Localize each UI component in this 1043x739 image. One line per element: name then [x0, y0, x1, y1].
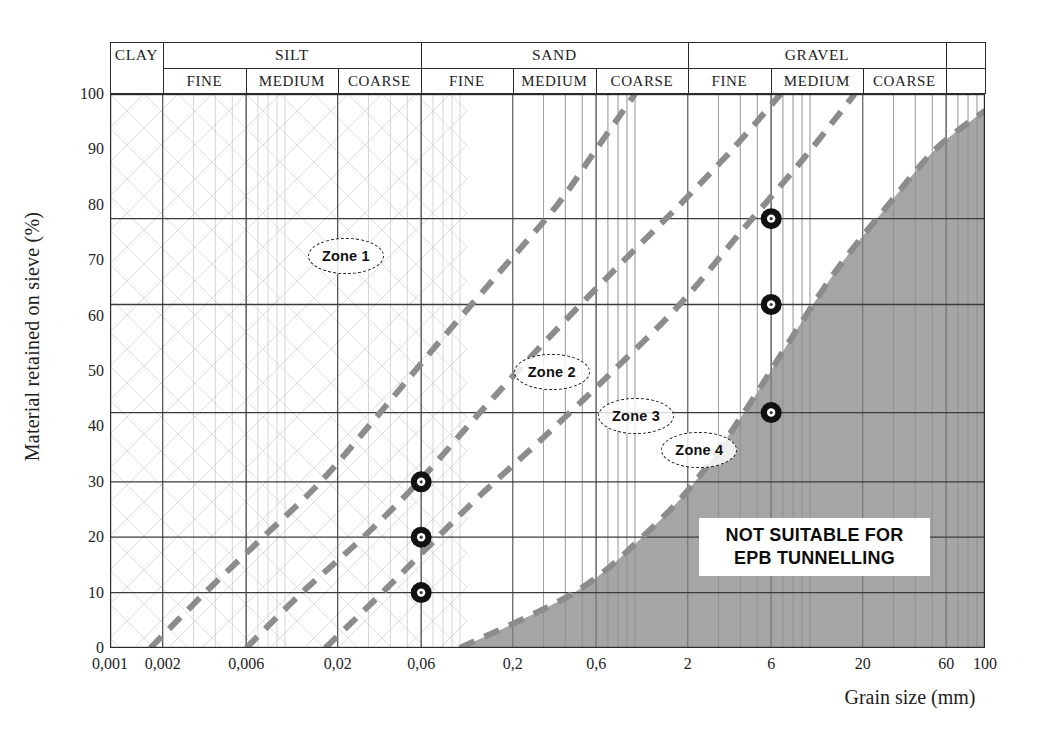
- data-marker-dot: [420, 480, 423, 483]
- soil-subclass-label: FINE: [688, 68, 771, 94]
- x-tick-label: 0,2: [503, 655, 523, 673]
- zone-annotation: Zone 2: [514, 354, 590, 390]
- data-marker-dot: [770, 411, 773, 414]
- y-tick-label: 60: [64, 308, 104, 324]
- x-tick-label: 0,002: [145, 655, 181, 673]
- x-tick-label: 0,02: [324, 655, 352, 673]
- x-tick-label: 0,001: [92, 655, 128, 673]
- y-tick-label: 90: [64, 141, 104, 157]
- soil-subclass-label: COARSE: [863, 68, 946, 94]
- header-divider: [771, 68, 772, 94]
- soil-subclass-label: FINE: [163, 68, 246, 94]
- soil-class-label: SAND: [421, 42, 688, 68]
- header-divider: [110, 42, 111, 94]
- y-axis-tick-labels: 0102030405060708090100: [60, 0, 104, 739]
- soil-subclass-label: MEDIUM: [246, 68, 338, 94]
- header-divider: [163, 68, 164, 94]
- x-tick-label: 0,6: [586, 655, 606, 673]
- x-axis-title: Grain size (mm): [800, 686, 1020, 709]
- y-tick-label: 70: [64, 252, 104, 268]
- y-axis-title: Material retained on sieve (%): [21, 77, 44, 597]
- x-tick-label: 100: [973, 655, 997, 673]
- header-divider: [946, 42, 947, 94]
- soil-subclass-label: COARSE: [338, 68, 421, 94]
- x-tick-label: 0,006: [228, 655, 264, 673]
- header-divider: [863, 68, 864, 94]
- not-suitable-callout: NOT SUITABLE FOR EPB TUNNELLING: [699, 518, 930, 576]
- zone-annotation: Zone 1: [308, 238, 384, 274]
- y-tick-label: 10: [64, 585, 104, 601]
- y-tick-label: 80: [64, 197, 104, 213]
- header-divider: [985, 42, 986, 94]
- header-divider: [421, 68, 422, 94]
- x-tick-label: 0,06: [407, 655, 435, 673]
- soil-subclass-label: COARSE: [596, 68, 688, 94]
- soil-subclass-label: MEDIUM: [771, 68, 863, 94]
- y-tick-label: 0: [64, 640, 104, 656]
- header-divider: [513, 68, 514, 94]
- y-tick-label: 30: [64, 474, 104, 490]
- x-axis-tick-labels: 0,0010,0020,0060,020,060,20,6262060100: [0, 655, 1043, 683]
- x-tick-label: 2: [684, 655, 692, 673]
- data-marker-dot: [420, 536, 423, 539]
- soil-class-label: CLAY: [110, 42, 163, 68]
- grain-size-distribution-chart: Material retained on sieve (%) 010203040…: [0, 0, 1043, 739]
- header-divider: [688, 68, 689, 94]
- x-tick-label: 6: [767, 655, 775, 673]
- soil-subclass-label: MEDIUM: [513, 68, 596, 94]
- zone-annotation: Zone 4: [661, 432, 737, 468]
- y-tick-label: 40: [64, 418, 104, 434]
- header-divider: [338, 68, 339, 94]
- not-suitable-line-1: NOT SUITABLE FOR: [726, 524, 904, 547]
- x-tick-label: 60: [938, 655, 954, 673]
- soil-classification-header: CLAYSILTFINEMEDIUMCOARSESANDFINEMEDIUMCO…: [110, 42, 985, 94]
- y-tick-label: 50: [64, 363, 104, 379]
- soil-class-label: GRAVEL: [688, 42, 946, 68]
- data-marker-dot: [770, 217, 773, 220]
- header-divider: [596, 68, 597, 94]
- not-suitable-line-2: EPB TUNNELLING: [734, 547, 895, 570]
- header-divider: [246, 68, 247, 94]
- data-marker-dot: [420, 591, 423, 594]
- soil-class-label: SILT: [163, 42, 421, 68]
- y-tick-label: 20: [64, 529, 104, 545]
- y-tick-label: 100: [64, 86, 104, 102]
- x-tick-label: 20: [855, 655, 871, 673]
- data-marker-dot: [770, 303, 773, 306]
- soil-subclass-label: FINE: [421, 68, 513, 94]
